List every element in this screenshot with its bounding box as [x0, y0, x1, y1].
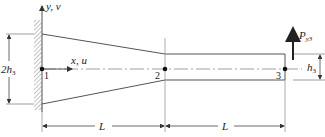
tip-height-label: h3	[307, 61, 317, 75]
load-label: Py3	[298, 29, 313, 43]
node-2-label: 2	[155, 70, 160, 81]
fixed-support-wall	[34, 20, 42, 110]
x-axis: x, u	[42, 54, 87, 69]
y-axis: y, v	[42, 0, 61, 112]
segment-2-length-dimension: L	[166, 120, 284, 132]
root-height-label: 2h3	[1, 63, 16, 77]
tip-height-dimension: h3	[293, 54, 325, 80]
uniform-segment	[165, 54, 285, 80]
node-3: 3	[276, 67, 287, 81]
root-height-dimension: 2h3	[1, 34, 34, 104]
wall-hatch	[34, 20, 42, 110]
node-1-label: 1	[44, 70, 49, 81]
x-axis-label: x, u	[70, 54, 87, 66]
load-arrow-py3: Py3	[293, 29, 313, 60]
node-2-dot	[163, 67, 168, 72]
segment-1-length-label: L	[98, 120, 105, 132]
node-3-label: 3	[276, 70, 281, 81]
segment-2-length-label: L	[221, 120, 228, 132]
beam-diagram: y, v x, u 1 2 3 2h3	[0, 0, 325, 137]
node-3-dot	[283, 67, 288, 72]
segment-1-length-dimension: L	[43, 120, 164, 132]
y-axis-label: y, v	[45, 0, 61, 12]
